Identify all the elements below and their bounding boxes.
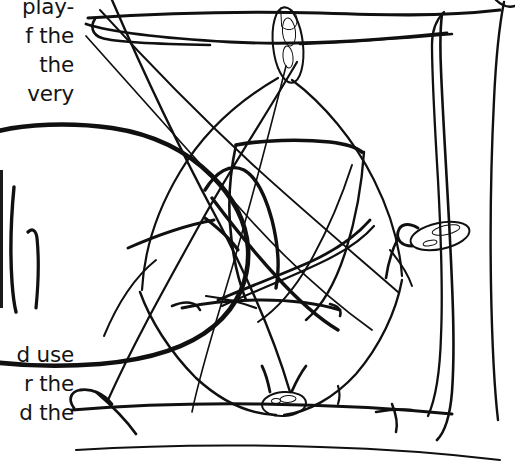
- right-vertical-channel-lines: [428, 0, 515, 440]
- page-gutter-rule: [0, 170, 3, 308]
- bottom-horizontal-rules: [71, 386, 500, 460]
- left-short-vertical-strokes: [11, 187, 38, 312]
- top-horizontal-rules: [86, 10, 500, 45]
- scanned-page: play- f the the very d use r the d the: [0, 0, 515, 468]
- long-diagonal-strokes: [86, 0, 398, 412]
- outer-frame-arcs: [104, 78, 412, 415]
- hand-drawn-ink-sketch: [0, 0, 515, 468]
